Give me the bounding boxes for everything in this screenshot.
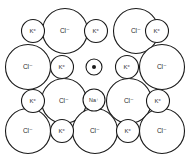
ion-label: Cl⁻ — [23, 127, 33, 134]
ion-label: K⁺ — [124, 128, 131, 134]
ion-chloride: Cl⁻ — [140, 45, 185, 90]
lattice-ion-layer: Cl⁻Cl⁻Cl⁻Cl⁻Cl⁻Cl⁻Cl⁻Cl⁻Cl⁻K⁺K⁺K⁺K⁺K⁺K⁺K… — [6, 9, 185, 154]
ion-potassium: K⁺ — [22, 20, 45, 43]
ion-potassium: K⁺ — [22, 90, 45, 113]
ion-chloride: Cl⁻ — [6, 45, 51, 90]
ion-label: Cl⁻ — [23, 63, 33, 70]
ion-potassium: K⁺ — [85, 20, 108, 43]
ion-chloride: Cl⁻ — [73, 109, 118, 154]
ion-label: K⁺ — [29, 98, 36, 104]
ionic-crystal-lattice-diagram: Cl⁻Cl⁻Cl⁻Cl⁻Cl⁻Cl⁻Cl⁻Cl⁻Cl⁻K⁺K⁺K⁺K⁺K⁺K⁺K… — [0, 0, 189, 160]
ion-label: K⁺ — [58, 128, 65, 134]
lattice-svg-canvas: Cl⁻Cl⁻Cl⁻Cl⁻Cl⁻Cl⁻Cl⁻Cl⁻Cl⁻K⁺K⁺K⁺K⁺K⁺K⁺K… — [0, 0, 189, 160]
ion-chloride: Cl⁻ — [6, 109, 51, 154]
ion-label: Cl⁻ — [59, 97, 69, 104]
electron-dot-icon — [92, 65, 96, 69]
ion-label: Cl⁻ — [131, 27, 141, 34]
ion-chloride: Cl⁻ — [140, 109, 185, 154]
ion-potassium: K⁺ — [116, 56, 139, 79]
ion-chloride: Cl⁻ — [43, 9, 88, 54]
ion-label: K⁺ — [92, 28, 99, 34]
ion-label: Cl⁻ — [90, 127, 100, 134]
ion-potassium: K⁺ — [51, 120, 74, 143]
ion-potassium: K⁺ — [146, 20, 169, 43]
ion-electron-vacancy — [86, 59, 102, 75]
ion-sodium: Na⁺ — [83, 89, 105, 111]
ion-label: K⁺ — [154, 98, 161, 104]
ion-potassium: K⁺ — [147, 90, 170, 113]
ion-label: K⁺ — [123, 64, 130, 70]
ion-label: Cl⁻ — [60, 27, 70, 34]
ion-potassium: K⁺ — [117, 120, 140, 143]
ion-label: Cl⁻ — [124, 97, 134, 104]
ion-label: Cl⁻ — [157, 127, 167, 134]
ion-label: K⁺ — [58, 64, 65, 70]
ion-label: K⁺ — [29, 28, 36, 34]
ion-label: Na⁺ — [89, 97, 99, 103]
ion-potassium: K⁺ — [51, 56, 74, 79]
ion-label: K⁺ — [153, 28, 160, 34]
ion-label: Cl⁻ — [157, 63, 167, 70]
